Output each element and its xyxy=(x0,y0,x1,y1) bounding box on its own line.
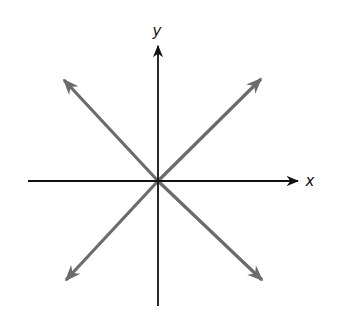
vector-arrow-upper-left xyxy=(64,80,158,181)
coordinate-diagram: x y xyxy=(0,0,338,331)
x-axis-label: x xyxy=(305,172,315,190)
vector-arrow-upper-right xyxy=(158,79,261,181)
vector-arrow-lower-right xyxy=(158,181,262,280)
vector-arrow-lower-left xyxy=(66,181,158,280)
diagonal-vectors xyxy=(64,79,262,280)
y-axis-label: y xyxy=(152,22,163,40)
